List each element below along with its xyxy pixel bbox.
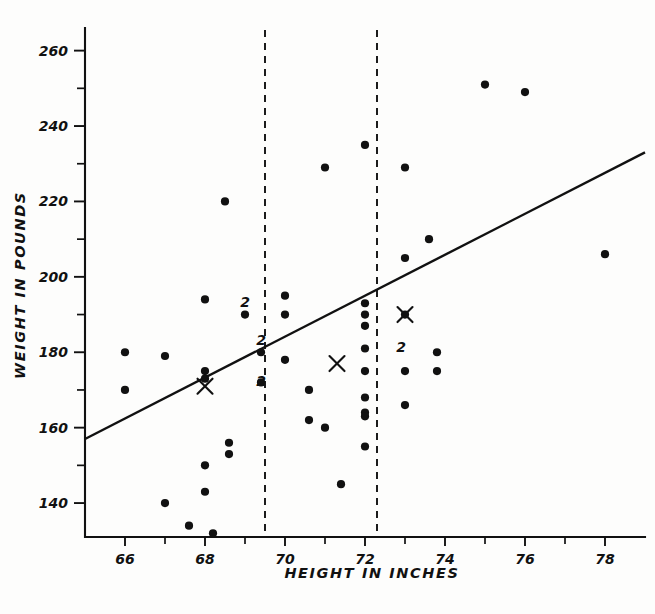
data-point-group [121, 80, 609, 537]
data-point [361, 141, 369, 149]
data-point [337, 480, 345, 488]
data-point [401, 254, 409, 262]
plot-canvas: 66687072747678 260240220200180160140 222… [0, 0, 655, 614]
data-point [161, 499, 169, 507]
duplicate-count-label: 2 [256, 373, 266, 389]
duplicate-count-label: 2 [396, 339, 406, 355]
y-tick-label: 260 [39, 43, 68, 59]
scatter-plot-figure: 66687072747678 260240220200180160140 222… [0, 0, 655, 614]
data-point [361, 310, 369, 318]
data-point [201, 375, 209, 383]
y-tick-label: 160 [39, 420, 68, 436]
data-point [521, 88, 529, 96]
data-point [305, 386, 313, 394]
y-axis-title: WEIGHT IN POUNDS [12, 191, 28, 379]
data-point [185, 522, 193, 530]
vertical-divider-lines [265, 30, 377, 537]
data-point [401, 401, 409, 409]
y-tick-label: 200 [39, 269, 68, 285]
data-point [361, 299, 369, 307]
data-point [281, 292, 289, 300]
group-mean-marker [330, 356, 345, 371]
x-axis-major-ticks [125, 537, 605, 546]
data-point [201, 488, 209, 496]
data-point [361, 344, 369, 352]
data-point [481, 80, 489, 88]
data-point [321, 163, 329, 171]
data-point [361, 412, 369, 420]
y-tick-label: 220 [39, 193, 68, 209]
group-mean-markers [198, 307, 413, 394]
data-point [201, 295, 209, 303]
data-point [433, 367, 441, 375]
data-point [361, 367, 369, 375]
y-tick-label: 180 [39, 344, 68, 360]
data-point [225, 450, 233, 458]
y-axis-major-ticks [74, 51, 85, 503]
data-point [209, 529, 217, 537]
x-tick-label: 78 [595, 551, 615, 567]
data-point [221, 197, 229, 205]
data-point [401, 367, 409, 375]
axes-frame [85, 28, 645, 537]
data-point [225, 439, 233, 447]
data-point [201, 367, 209, 375]
data-point [361, 442, 369, 450]
data-point [201, 461, 209, 469]
data-point [361, 322, 369, 330]
y-axis-tick-labels: 260240220200180160140 [39, 43, 68, 511]
y-tick-label: 240 [39, 118, 68, 134]
data-point [425, 235, 433, 243]
x-tick-label: 68 [195, 551, 215, 567]
x-tick-label: 66 [115, 551, 135, 567]
data-point [433, 348, 441, 356]
duplicate-count-label: 2 [256, 332, 266, 348]
duplicate-count-label: 2 [240, 294, 250, 310]
data-point [321, 424, 329, 432]
data-point [121, 348, 129, 356]
group-mean-marker [398, 307, 413, 322]
data-point [305, 416, 313, 424]
data-point [361, 393, 369, 401]
data-point [601, 250, 609, 258]
data-point [121, 386, 129, 394]
x-axis-title: HEIGHT IN INCHES [284, 565, 459, 581]
x-tick-label: 76 [515, 551, 535, 567]
data-point [281, 356, 289, 364]
data-point [401, 163, 409, 171]
data-point [241, 310, 249, 318]
data-point [257, 348, 265, 356]
data-point [281, 310, 289, 318]
y-tick-label: 140 [39, 495, 68, 511]
data-point [161, 352, 169, 360]
